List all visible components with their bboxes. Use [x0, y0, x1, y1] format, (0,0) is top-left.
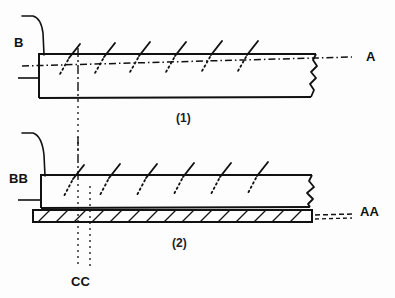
figure-2-caption: (2) [172, 237, 187, 249]
figure-1-caption: (1) [176, 112, 191, 124]
figure-2-aa-leader-2 [315, 218, 352, 219]
section-line-cc-group [78, 48, 90, 268]
diagram-canvas [0, 0, 395, 298]
technical-diagram: B A (1) BB AA (2) CC [0, 0, 395, 298]
figure-2-ticks-dotted [64, 178, 256, 196]
figure-1-left-bracket [22, 16, 44, 55]
figure-2-hatch-band-outline [33, 210, 312, 222]
label-b: B [14, 36, 23, 49]
figure-2-ticks-solid [73, 162, 268, 179]
label-a: A [366, 50, 375, 63]
figure-2-left-bracket [22, 133, 45, 176]
figure-2-aa-leader [315, 214, 352, 215]
figure-2-group [18, 133, 352, 222]
figure-1-ticks-solid [69, 41, 258, 58]
label-bb: BB [9, 172, 28, 185]
figure-2-break-symbol [307, 175, 314, 207]
figure-1-centerline [22, 57, 352, 66]
figure-1-group [18, 16, 352, 98]
figure-1-break-symbol [310, 54, 317, 97]
figure-1-bottom-edge [39, 97, 311, 98]
figure-2-band-bottom-edge [41, 207, 310, 208]
label-cc: CC [71, 275, 90, 288]
label-aa: AA [360, 205, 379, 218]
figure-1-ticks-dotted [60, 57, 246, 74]
